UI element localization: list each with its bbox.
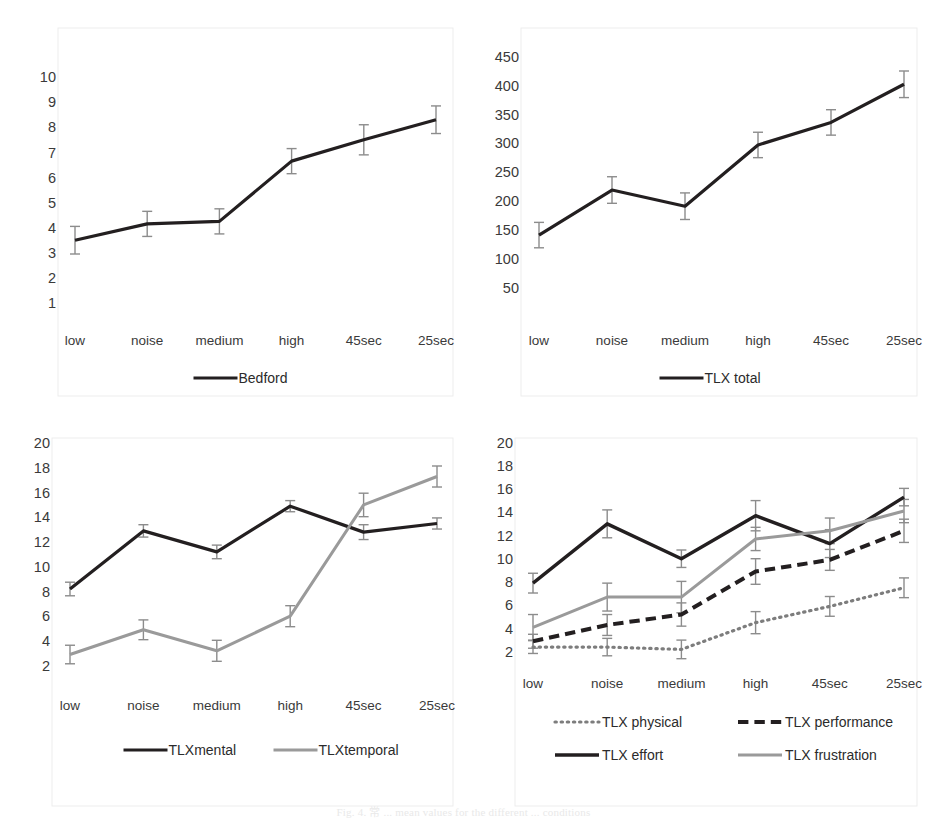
x-tick-label: 25sec (886, 676, 922, 691)
series-line-tlxmental (70, 506, 437, 589)
chart-panel-tlx-total: 45040035030025020015010050lownoisemedium… (463, 0, 927, 410)
y-tick-label: 400 (495, 78, 519, 94)
y-tick-label: 100 (495, 251, 519, 267)
x-tick-label: 25sec (418, 333, 454, 348)
chart-panel-bedford: 10987654321lownoisemediumhigh45sec25secB… (0, 0, 463, 410)
x-tick-label: medium (195, 333, 243, 348)
series-line-tlx-total (539, 84, 904, 235)
chart-svg-tlx-total: 45040035030025020015010050lownoisemedium… (463, 0, 927, 410)
y-tick-label: 4 (48, 220, 56, 236)
y-tick-label: 2 (505, 644, 513, 660)
series-line-tlx-physical (533, 588, 904, 650)
x-tick-label: high (743, 676, 769, 691)
y-tick-label: 20 (34, 435, 50, 451)
x-tick-label: 45sec (813, 333, 849, 348)
x-tick-label: 25sec (419, 698, 455, 713)
legend-label: TLX effort (602, 747, 663, 763)
x-tick-label: medium (193, 698, 241, 713)
y-tick-label: 1 (48, 295, 56, 311)
x-tick-label: low (529, 333, 550, 348)
error-bars-tlx-total (534, 71, 909, 248)
y-tick-label: 6 (505, 597, 513, 613)
y-tick-label: 7 (48, 145, 56, 161)
y-tick-label: 16 (34, 485, 50, 501)
legend-item[interactable]: TLX physical (555, 714, 682, 730)
y-tick-label: 12 (34, 534, 50, 550)
error-bars-tlx-physical (528, 578, 909, 659)
y-tick-label: 4 (505, 621, 513, 637)
legend-item[interactable]: TLXmental (124, 742, 237, 758)
y-tick-label: 20 (497, 435, 513, 451)
series-line-bedford (75, 120, 436, 240)
x-tick-label: low (523, 676, 544, 691)
series-line-tlxtemporal (70, 477, 437, 655)
x-tick-label: high (277, 698, 303, 713)
y-tick-label: 350 (495, 107, 519, 123)
x-tick-label: noise (596, 333, 628, 348)
series-line-tlx-effort (533, 497, 904, 583)
legend-item[interactable]: TLXtemporal (274, 742, 399, 758)
x-tick-label: 45sec (346, 698, 382, 713)
y-tick-label: 250 (495, 164, 519, 180)
y-tick-label: 12 (497, 528, 513, 544)
y-tick-label: 10 (497, 551, 513, 567)
x-tick-label: medium (657, 676, 705, 691)
y-tick-label: 3 (48, 245, 56, 261)
chart-svg-tlx-subscales: 2018161412108642lownoisemediumhigh45sec2… (463, 410, 927, 820)
legend-item[interactable]: TLX performance (738, 714, 893, 730)
series-line-tlx-performance (533, 531, 904, 641)
y-tick-label: 6 (42, 608, 50, 624)
y-tick-label: 450 (495, 49, 519, 65)
legend-label: Bedford (239, 370, 288, 386)
series-line-tlx-frustration (533, 511, 904, 627)
legend-label: TLX frustration (785, 747, 877, 763)
x-tick-label: high (745, 333, 771, 348)
legend-label: TLX total (705, 370, 761, 386)
y-tick-label: 50 (503, 280, 519, 296)
legend-label: TLXtemporal (319, 742, 399, 758)
y-tick-label: 6 (48, 170, 56, 186)
y-tick-label: 300 (495, 135, 519, 151)
x-tick-label: noise (127, 698, 159, 713)
legend-item[interactable]: TLX total (660, 370, 761, 386)
y-tick-label: 10 (40, 69, 56, 85)
x-tick-label: 45sec (812, 676, 848, 691)
chart-panel-tlx-mental-temporal: 2018161412108642lownoisemediumhigh45sec2… (0, 410, 463, 820)
y-tick-label: 8 (505, 574, 513, 590)
y-tick-label: 14 (34, 509, 50, 525)
y-tick-label: 10 (34, 559, 50, 575)
x-tick-label: low (60, 698, 81, 713)
x-tick-label: medium (661, 333, 709, 348)
legend-item[interactable]: Bedford (194, 370, 288, 386)
x-tick-label: low (65, 333, 86, 348)
x-tick-label: 25sec (886, 333, 922, 348)
y-tick-label: 8 (42, 584, 50, 600)
y-tick-label: 200 (495, 193, 519, 209)
chart-svg-bedford: 10987654321lownoisemediumhigh45sec25secB… (0, 0, 463, 410)
legend-label: TLX performance (785, 714, 893, 730)
x-tick-label: noise (131, 333, 163, 348)
legend-label: TLXmental (169, 742, 237, 758)
y-tick-label: 18 (497, 458, 513, 474)
y-tick-label: 8 (48, 119, 56, 135)
legend-item[interactable]: TLX frustration (738, 747, 877, 763)
x-tick-label: noise (591, 676, 623, 691)
x-tick-label: 45sec (346, 333, 382, 348)
y-tick-label: 4 (42, 633, 50, 649)
y-tick-label: 14 (497, 504, 513, 520)
chart-svg-tlx-mental-temporal: 2018161412108642lownoisemediumhigh45sec2… (0, 410, 463, 820)
x-tick-label: high (279, 333, 305, 348)
legend-item[interactable]: TLX effort (555, 747, 663, 763)
y-tick-label: 5 (48, 195, 56, 211)
chart-panel-tlx-subscales: 2018161412108642lownoisemediumhigh45sec2… (463, 410, 927, 820)
y-tick-label: 18 (34, 460, 50, 476)
legend-label: TLX physical (602, 714, 682, 730)
y-tick-label: 2 (42, 658, 50, 674)
y-tick-label: 9 (48, 94, 56, 110)
y-tick-label: 16 (497, 481, 513, 497)
error-bars-bedford (70, 106, 441, 254)
y-tick-label: 2 (48, 270, 56, 286)
figure-container: 10987654321lownoisemediumhigh45sec25secB… (0, 0, 927, 820)
figure-caption: Fig. 4. 常 ... mean values for the differ… (0, 803, 927, 819)
y-tick-label: 150 (495, 222, 519, 238)
